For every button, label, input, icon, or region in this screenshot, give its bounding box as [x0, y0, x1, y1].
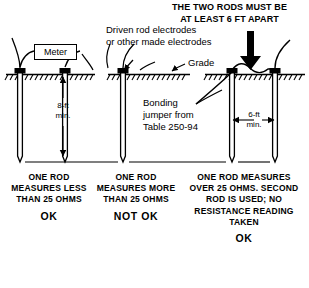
spacing-dimension-label: 6-ft min.	[239, 110, 269, 130]
ground-line-right	[204, 75, 305, 81]
panel-verdict-1: NOT OK	[91, 211, 181, 222]
panel-caption-1: ONE ROD MEASURES MORE THAN 25 OHMS NOT O…	[91, 172, 181, 222]
bonding-jumper-label: Bonding jumper from Table 250-94	[143, 97, 198, 133]
panel-verdict-0: OK	[4, 211, 94, 222]
panel-verdict-2: OK	[185, 233, 303, 244]
heading-text: THE TWO RODS MUST BE AT LEAST 6 FT APART	[152, 2, 307, 25]
panel-caption-text-2: ONE ROD MEASURES OVER 25 OHMS. SECOND RO…	[190, 172, 299, 227]
electrode-leader-lines	[107, 44, 185, 71]
ground-line-middle	[107, 75, 190, 81]
depth-dimension-label: 8-ft min.	[48, 101, 78, 121]
grade-label: Grade	[188, 57, 214, 69]
meter-box: Meter	[34, 44, 77, 60]
panel-caption-0: ONE ROD MEASURES LESS THAN 25 OHMS OK	[4, 172, 94, 222]
panel-caption-text-1: ONE ROD MEASURES MORE THAN 25 OHMS	[97, 172, 176, 204]
meter-label: Meter	[44, 47, 67, 57]
ground-rod-right-a	[227, 68, 238, 162]
electrodes-label: Driven rod electrodes or other made elec…	[106, 24, 212, 48]
ground-rod-middle	[118, 68, 129, 162]
panel-caption-text-0: ONE ROD MEASURES LESS THAN 25 OHMS	[11, 172, 86, 204]
ground-rod-right-b	[270, 68, 281, 162]
grounding-electrode-diagram: Meter THE TWO RODS MUST BE AT LEAST 6 FT…	[0, 0, 309, 288]
panel-caption-2: ONE ROD MEASURES OVER 25 OHMS. SECOND RO…	[185, 172, 303, 244]
ground-rod-left-a	[15, 68, 26, 162]
